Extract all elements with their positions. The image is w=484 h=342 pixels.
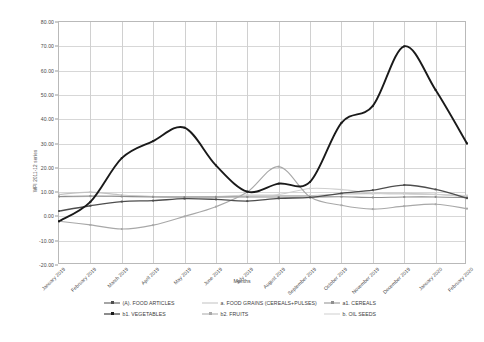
data-point-marker: [152, 140, 154, 142]
data-point-marker: [89, 205, 91, 207]
legend-label: a1. CEREALS: [343, 300, 376, 306]
y-axis-tick-mark: [55, 216, 58, 217]
data-point-marker: [466, 143, 468, 145]
data-point-marker: [121, 228, 123, 230]
y-axis-title: WPI 2011-12 series: [33, 150, 38, 193]
data-point-marker: [58, 194, 60, 196]
data-point-marker: [246, 191, 248, 193]
legend-item[interactable]: b. OIL SEEDS: [324, 310, 404, 317]
legend-item[interactable]: b1. VEGETABLES: [104, 310, 202, 317]
y-axis-tick: 50.00: [41, 92, 54, 98]
data-point-marker: [246, 200, 248, 202]
legend-item[interactable]: a1. CEREALS: [324, 299, 404, 306]
data-point-marker: [341, 192, 343, 194]
data-point-marker: [278, 197, 280, 199]
data-point-marker: [215, 164, 217, 166]
y-axis-tick-mark: [55, 192, 58, 193]
data-point-marker: [403, 45, 405, 47]
legend-swatch-icon: [324, 299, 340, 306]
data-point-marker: [152, 196, 154, 198]
data-point-marker: [403, 184, 405, 186]
data-point-marker: [372, 192, 374, 194]
y-axis-tick: 10.00: [41, 189, 54, 195]
legend-label: b. OIL SEEDS: [343, 311, 377, 317]
wpi-line-chart: WPI 2011-12 series 80.0070.0060.0050.004…: [0, 0, 484, 342]
data-point-marker: [152, 200, 154, 202]
legend-label: a. FOOD GRAINS (CEREALS+PULSES): [221, 300, 317, 306]
data-point-marker: [435, 89, 437, 91]
data-point-marker: [184, 198, 186, 200]
data-point-marker: [341, 122, 343, 124]
data-point-marker: [121, 196, 123, 198]
y-axis-tick-mark: [55, 265, 58, 266]
data-point-marker: [466, 195, 468, 197]
y-axis-tick-mark: [55, 143, 58, 144]
data-point-marker: [58, 220, 60, 222]
y-axis-tick-mark: [55, 240, 58, 241]
data-point-marker: [341, 196, 343, 198]
legend-swatch-icon: [202, 299, 218, 306]
legend-label: b2. FRUITS: [221, 311, 249, 317]
y-axis-tick-mark: [55, 46, 58, 47]
y-axis-tick-mark: [55, 94, 58, 95]
y-axis-tick-mark: [55, 167, 58, 168]
data-point-marker: [309, 197, 311, 199]
y-axis-tick: -10.00: [39, 238, 54, 244]
chart-legend: (A). FOOD ARTICLESa. FOOD GRAINS (CEREAL…: [104, 297, 404, 319]
data-point-marker: [121, 157, 123, 159]
data-point-marker: [435, 194, 437, 196]
data-point-marker: [278, 194, 280, 196]
y-axis-tick: 30.00: [41, 141, 54, 147]
data-point-marker: [278, 166, 280, 168]
y-axis-tick-mark: [55, 119, 58, 120]
data-point-marker: [278, 183, 280, 185]
y-axis-tick-mark: [55, 22, 58, 23]
data-point-marker: [466, 208, 468, 210]
legend-item[interactable]: (A). FOOD ARTICLES: [104, 299, 202, 306]
data-point-marker: [89, 191, 91, 193]
plot-area: 80.0070.0060.0050.0040.0030.0020.0010.00…: [58, 21, 466, 264]
y-axis-tick: 60.00: [41, 68, 54, 74]
data-point-marker: [58, 196, 60, 198]
data-point-marker: [372, 197, 374, 199]
data-point-marker: [184, 215, 186, 217]
data-point-marker: [403, 193, 405, 195]
data-point-marker: [466, 197, 468, 199]
data-point-marker: [58, 210, 60, 212]
data-point-marker: [403, 205, 405, 207]
series-5: [58, 166, 468, 230]
legend-swatch-icon: [202, 310, 218, 317]
y-axis-tick: -20.00: [39, 262, 54, 268]
data-point-marker: [246, 194, 248, 196]
data-point-marker: [89, 224, 91, 226]
y-axis-tick: 0.00: [44, 213, 54, 219]
series-lines: [59, 22, 467, 265]
data-point-marker: [435, 203, 437, 205]
y-axis-tick: 40.00: [41, 116, 54, 122]
data-point-marker: [121, 201, 123, 203]
data-point-marker: [435, 188, 437, 190]
legend-item[interactable]: a. FOOD GRAINS (CEREALS+PULSES): [202, 299, 324, 306]
legend-item[interactable]: b2. FRUITS: [202, 310, 324, 317]
data-point-marker: [215, 196, 217, 198]
data-point-marker: [372, 105, 374, 107]
series-1: [58, 184, 468, 212]
y-axis-tick: 80.00: [41, 19, 54, 25]
data-point-marker: [184, 196, 186, 198]
legend-label: (A). FOOD ARTICLES: [123, 300, 175, 306]
legend-swatch-icon: [104, 299, 120, 306]
data-point-marker: [403, 196, 405, 198]
data-point-marker: [435, 196, 437, 198]
legend-label: b1. VEGETABLES: [123, 311, 166, 317]
data-point-marker: [341, 204, 343, 206]
y-axis-tick: 70.00: [41, 43, 54, 49]
data-point-marker: [184, 127, 186, 129]
x-axis-title: Months: [0, 278, 484, 284]
y-axis-tick-mark: [55, 70, 58, 71]
data-point-marker: [89, 195, 91, 197]
data-point-marker: [215, 206, 217, 208]
data-point-marker: [246, 196, 248, 198]
data-point-marker: [89, 201, 91, 203]
data-point-marker: [372, 208, 374, 210]
data-point-marker: [215, 198, 217, 200]
